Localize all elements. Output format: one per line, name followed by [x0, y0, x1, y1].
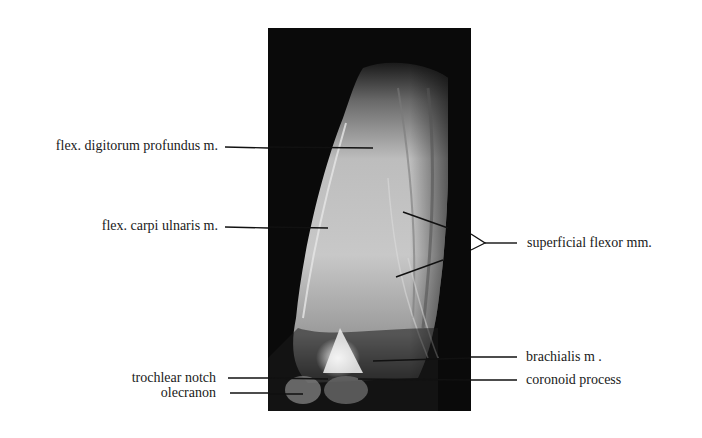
- label-superficial-flexor-muscles: superficial flexor mm.: [527, 235, 652, 251]
- label-flexor-carpi-ulnaris: flex. carpi ulnaris m.: [0, 218, 218, 234]
- label-brachialis: brachialis m .: [526, 349, 602, 365]
- label-coronoid-process: coronoid process: [526, 372, 621, 388]
- label-trochlear-notch: trochlear notch: [0, 370, 216, 386]
- mri-image: [268, 28, 471, 411]
- label-olecranon: olecranon: [0, 385, 216, 401]
- anatomy-figure: flex. digitorum profundus m. flex. carpi…: [0, 0, 702, 438]
- label-flexor-digitorum-profundus: flex. digitorum profundus m.: [0, 138, 218, 154]
